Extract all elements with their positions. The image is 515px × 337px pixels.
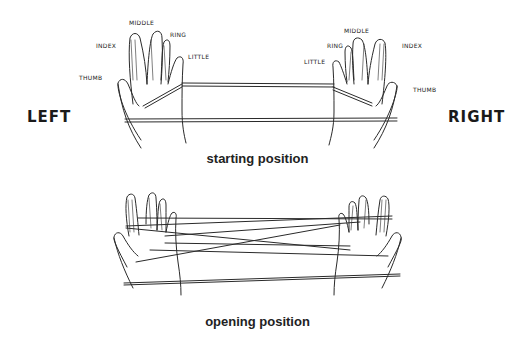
- left-hand-starting: [118, 31, 186, 148]
- left-index-label: INDEX: [96, 42, 116, 49]
- left-ring-label: RING: [170, 31, 186, 38]
- right-index-label: INDEX: [402, 42, 422, 49]
- left-thumb-label: THUMB: [79, 74, 102, 81]
- right-little-label: LITTLE: [304, 58, 325, 65]
- left-little-label: LITTLE: [188, 53, 209, 60]
- string-figure-drawing: [0, 0, 515, 337]
- right-ring-label: RING: [327, 42, 343, 49]
- right-thumb-label: THUMB: [413, 86, 436, 93]
- starting-position-caption: starting position: [0, 151, 515, 166]
- right-side-label: RIGHT: [448, 108, 505, 126]
- left-hand-opening: [114, 193, 181, 295]
- string-opening: [124, 216, 400, 285]
- string-starting: [125, 83, 397, 122]
- opening-position-caption: opening position: [0, 314, 515, 329]
- right-middle-label: MIDDLE: [344, 27, 369, 34]
- left-middle-label: MIDDLE: [129, 19, 154, 26]
- left-side-label: LEFT: [27, 108, 71, 126]
